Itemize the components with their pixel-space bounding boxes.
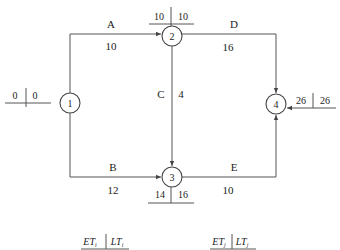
edge-a: A 10 [70, 18, 161, 93]
node-2-et: 10 [154, 11, 164, 22]
edge-e-duration: 10 [223, 184, 235, 196]
node-3-label: 3 [170, 172, 175, 183]
node-2-times: 10 10 [149, 7, 194, 26]
node-4: 4 26 26 [266, 93, 336, 114]
legend-left-et: ETi [82, 236, 97, 248]
edge-c-duration: 4 [178, 88, 184, 100]
node-3-times: 14 16 [148, 187, 194, 203]
legend-left-lt: LTi [110, 236, 124, 248]
node-1: 1 0 0 [5, 88, 80, 113]
network-diagram: A 10 B 12 C 4 D 16 E 10 1 0 0 [0, 0, 340, 250]
node-2: 10 10 2 [149, 7, 194, 46]
node-1-label: 1 [68, 98, 73, 109]
node-4-label: 4 [274, 99, 279, 110]
node-4-et: 26 [296, 95, 306, 106]
node-3-lt: 16 [178, 189, 188, 200]
edge-a-duration: 10 [106, 40, 118, 52]
edge-c-label: C [157, 88, 164, 100]
edge-d: D 16 [182, 18, 276, 93]
node-3: 3 14 16 [148, 167, 194, 203]
edge-b: B 12 [70, 113, 161, 196]
node-4-times: 26 26 [287, 93, 336, 108]
legend-right-lt: LTj [235, 236, 249, 248]
node-1-times: 0 0 [5, 88, 51, 107]
edge-e-label: E [231, 161, 238, 173]
edge-d-duration: 16 [223, 41, 235, 53]
edge-e: E 10 [182, 115, 276, 196]
legend-right: ETj LTj [210, 234, 256, 249]
edge-c: C 4 [157, 44, 184, 166]
node-2-lt: 10 [178, 11, 188, 22]
node-1-lt: 0 [33, 90, 38, 101]
edge-b-duration: 12 [108, 184, 119, 196]
node-4-lt: 26 [320, 95, 330, 106]
edge-a-label: A [107, 18, 115, 30]
node-1-et: 0 [13, 90, 18, 101]
node-3-et: 14 [155, 189, 165, 200]
edge-d-label: D [230, 18, 238, 30]
edge-b-label: B [109, 161, 116, 173]
legend-left: ETi LTi [81, 234, 129, 249]
legend-right-et: ETj [211, 236, 226, 248]
node-2-label: 2 [170, 31, 175, 42]
